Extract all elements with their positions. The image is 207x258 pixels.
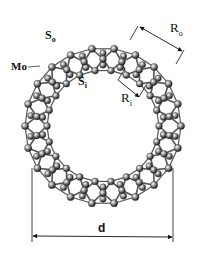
- sulfur-outer-atom: [25, 100, 32, 107]
- label-s-outer: So: [45, 29, 56, 44]
- sulfur-outer-atom: [67, 193, 74, 200]
- sulfur-inner-atom: [123, 174, 130, 181]
- sulfur-outer-atom: [48, 181, 55, 188]
- sulfur-outer-atom: [150, 181, 157, 188]
- sulfur-outer-atom: [34, 165, 41, 172]
- sulfur-inner-atom: [52, 153, 59, 160]
- sulfur-inner-atom: [76, 174, 83, 181]
- sulfur-outer-atom: [165, 80, 172, 87]
- sulfur-outer-atom: [100, 50, 106, 56]
- sulfur-outer-atom: [21, 122, 28, 129]
- sulfur-outer-atom: [111, 45, 118, 52]
- sulfur-inner-atom: [108, 67, 115, 74]
- sulfur-inner-atom: [108, 178, 115, 185]
- label-s-outer-sub: o: [52, 35, 56, 44]
- molybdenum-atom: [100, 190, 107, 197]
- label-r-inner: Ri: [121, 91, 132, 108]
- label-s-inner-main: S: [78, 74, 85, 88]
- molybdenum-atom: [63, 66, 70, 73]
- sulfur-inner-atom: [63, 80, 70, 87]
- sulfur-outer-atom: [111, 200, 118, 207]
- molybdenum-atom: [63, 179, 70, 186]
- sulfur-inner-atom: [46, 138, 53, 145]
- sulfur-outer-atom: [174, 100, 181, 107]
- nanotube-diagram: [0, 0, 207, 258]
- molybdenum-atom: [39, 95, 46, 102]
- sulfur-inner-atom: [39, 131, 45, 137]
- sulfur-inner-atom: [92, 67, 99, 74]
- sulfur-inner-atom: [153, 138, 160, 145]
- sulfur-inner-atom: [100, 62, 106, 68]
- molybdenum-atom: [161, 95, 168, 102]
- sulfur-inner-atom: [147, 153, 154, 160]
- label-r-inner-sub: i: [130, 99, 132, 108]
- sulfur-inner-atom: [92, 178, 99, 185]
- label-mo-main: Mo: [11, 60, 27, 72]
- label-s-inner: Si: [78, 75, 87, 90]
- molybdenum-atom: [150, 79, 157, 86]
- sulfur-inner-atom: [123, 72, 130, 79]
- sulfur-inner-atom: [63, 165, 70, 172]
- sulfur-outer-atom: [28, 112, 34, 118]
- label-diameter: d: [98, 222, 105, 234]
- sulfur-inner-atom: [160, 131, 166, 137]
- ring-atoms: [21, 45, 184, 207]
- sulfur-inner-atom: [52, 92, 59, 99]
- sulfur-inner-atom: [147, 92, 154, 99]
- label-s-outer-main: S: [45, 28, 52, 42]
- label-r-outer-main: R: [170, 20, 179, 35]
- label-mo: Mo: [11, 61, 27, 72]
- label-diameter-main: d: [98, 221, 105, 235]
- sulfur-outer-atom: [172, 133, 178, 139]
- sulfur-outer-atom: [28, 133, 34, 139]
- d-arrow: [33, 236, 172, 237]
- molybdenum-atom: [49, 79, 56, 86]
- molybdenum-atom: [39, 150, 46, 157]
- sulfur-inner-atom: [160, 114, 166, 120]
- molybdenum-atom: [161, 150, 168, 157]
- sulfur-outer-atom: [132, 51, 139, 58]
- sulfur-inner-atom: [153, 107, 160, 114]
- label-r-outer-sub: o: [179, 29, 183, 38]
- molybdenum-atom: [118, 187, 125, 194]
- sulfur-outer-atom: [172, 112, 178, 118]
- sulfur-outer-atom: [67, 51, 74, 58]
- r-outer-ext-1: [130, 26, 138, 40]
- sulfur-outer-atom: [177, 122, 184, 129]
- sulfur-inner-atom: [44, 123, 51, 130]
- sulfur-outer-atom: [25, 144, 32, 151]
- sulfur-inner-atom: [156, 123, 163, 130]
- sulfur-outer-atom: [88, 45, 95, 52]
- sulfur-outer-atom: [48, 63, 55, 70]
- label-r-outer: Ro: [170, 21, 183, 38]
- label-r-inner-main: R: [121, 90, 130, 105]
- molybdenum-atom: [33, 113, 40, 120]
- sulfur-inner-atom: [46, 107, 53, 114]
- sulfur-outer-atom: [34, 80, 41, 87]
- mo-leader-line: [28, 66, 40, 67]
- sulfur-outer-atom: [165, 165, 172, 172]
- sulfur-inner-atom: [39, 114, 45, 120]
- sulfur-outer-atom: [150, 63, 157, 70]
- molybdenum-atom: [49, 166, 56, 173]
- molybdenum-atom: [166, 113, 173, 120]
- molybdenum-atom: [136, 179, 143, 186]
- molybdenum-atom: [136, 66, 143, 73]
- sulfur-outer-atom: [174, 144, 181, 151]
- r-outer-ext-2: [176, 50, 184, 64]
- label-s-inner-sub: i: [85, 81, 87, 90]
- sulfur-inner-atom: [100, 184, 106, 190]
- sulfur-inner-atom: [136, 80, 143, 87]
- molybdenum-atom: [81, 187, 88, 194]
- molybdenum-atom: [33, 132, 40, 139]
- sulfur-inner-atom: [136, 165, 143, 172]
- sulfur-outer-atom: [132, 193, 139, 200]
- molybdenum-atom: [81, 58, 88, 65]
- sulfur-outer-atom: [100, 196, 106, 202]
- molybdenum-atom: [166, 132, 173, 139]
- sulfur-outer-atom: [88, 200, 95, 207]
- molybdenum-atom: [150, 166, 157, 173]
- molybdenum-atom: [100, 56, 107, 63]
- molybdenum-atom: [118, 58, 125, 65]
